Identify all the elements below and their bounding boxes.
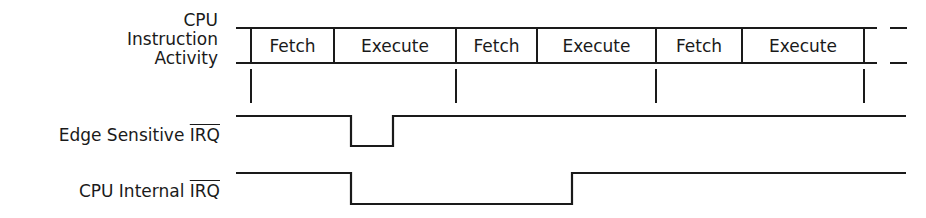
cell-fetch: Fetch (676, 36, 722, 56)
internal-irq-waveform (236, 173, 906, 204)
cell-fetch: Fetch (473, 36, 519, 56)
cpu-activity-cells: FetchExecuteFetchExecuteFetchExecute (269, 36, 837, 56)
cell-fetch: Fetch (269, 36, 315, 56)
cell-execute: Execute (361, 36, 429, 56)
timing-diagram: FetchExecuteFetchExecuteFetchExecute (0, 0, 926, 218)
edge-irq-waveform (236, 116, 906, 146)
cell-execute: Execute (769, 36, 837, 56)
cell-execute: Execute (563, 36, 631, 56)
